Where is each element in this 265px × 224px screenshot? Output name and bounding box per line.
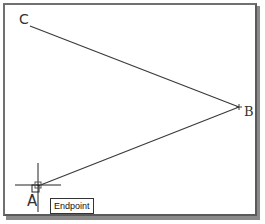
line-c-b[interactable] <box>30 26 239 107</box>
line-b-a[interactable] <box>38 107 239 186</box>
drawing-svg <box>0 0 265 224</box>
osnap-endpoint-tooltip: Endpoint <box>50 198 94 214</box>
point-label-b: B <box>244 105 254 118</box>
point-label-a: A <box>27 194 37 209</box>
point-b-marker <box>236 104 242 110</box>
point-label-c: C <box>19 12 29 26</box>
